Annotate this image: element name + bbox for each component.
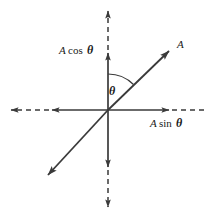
a-cos-theta-function: cos: [68, 44, 83, 56]
a-sin-theta-amplitude: A: [149, 117, 157, 129]
a-cos-theta-angle-symbol: θ: [87, 43, 94, 57]
vector-a-upper-half: [108, 51, 169, 110]
a-cos-theta-amplitude: A: [58, 44, 66, 56]
vector-components-figure: A A cos θ A sin θ θ: [0, 0, 214, 218]
angle-theta-label: θ: [109, 84, 116, 98]
axis-solid-lines: [52, 53, 169, 167]
a-sin-theta-label: A sin θ: [149, 116, 183, 130]
vector-a-label: A: [176, 38, 184, 50]
a-sin-theta-angle-symbol: θ: [176, 116, 183, 130]
a-sin-theta-function: sin: [159, 117, 172, 129]
vector-components-diagram: A A cos θ A sin θ θ: [0, 0, 214, 218]
vector-a-lower-half: [48, 110, 108, 175]
a-cos-theta-label: A cos θ: [58, 43, 94, 57]
